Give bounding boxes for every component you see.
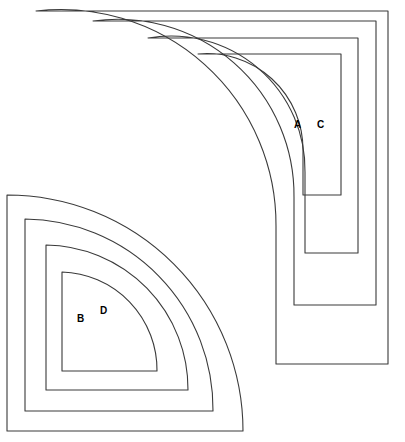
figure-canvas (0, 0, 405, 442)
upper-right-shape-group (36, 10, 388, 364)
region-label-b: B (77, 314, 84, 324)
lower-left-shape-group (7, 195, 243, 431)
lower-shape-2-outline (25, 219, 213, 411)
upper-shape-2-outline (93, 19, 376, 305)
upper-shape-3-outline (148, 36, 358, 253)
region-label-d: D (100, 306, 107, 316)
region-label-c: C (317, 120, 324, 130)
lower-shape-3-outline (46, 245, 188, 390)
geometry-figure: A C B D (0, 0, 405, 442)
lower-shape-1-outline (7, 195, 243, 431)
region-label-a: A (294, 120, 301, 130)
upper-shape-1-outline (36, 10, 388, 364)
